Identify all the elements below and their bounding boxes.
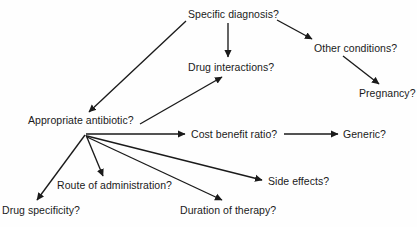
node-side-effects: Side effects?: [268, 175, 329, 187]
node-cost-benefit-ratio: Cost benefit ratio?: [191, 128, 277, 140]
edge-antibiotic-to-side-effects: [87, 136, 262, 180]
diagram-canvas: Specific diagnosis?Other conditions?Preg…: [0, 0, 417, 227]
node-generic: Generic?: [343, 128, 386, 140]
edge-other-to-pregnancy: [343, 56, 379, 84]
node-other-conditions: Other conditions?: [314, 42, 397, 54]
node-drug-interactions: Drug interactions?: [188, 61, 274, 73]
node-specific-diagnosis: Specific diagnosis?: [188, 8, 279, 20]
edge-diagnosis-to-antibiotic: [89, 21, 186, 112]
node-route-of-administration: Route of administration?: [57, 179, 172, 191]
node-appropriate-antibiotic: Appropriate antibiotic?: [28, 114, 134, 126]
node-duration-of-therapy: Duration of therapy?: [180, 204, 276, 216]
node-drug-specificity: Drug specificity?: [2, 204, 80, 216]
edge-diagnosis-to-other: [277, 20, 312, 39]
node-pregnancy: Pregnancy?: [359, 87, 416, 99]
edge-antibiotic-to-interactions: [140, 77, 222, 124]
